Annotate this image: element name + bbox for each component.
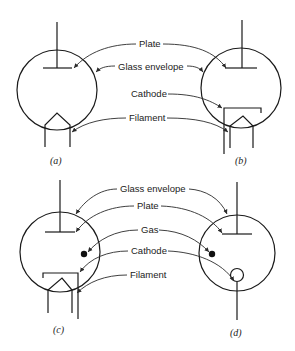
label-cathode-top: Cathode — [131, 88, 167, 99]
label-cathode-bottom: Cathode — [131, 245, 167, 256]
glass-envelope-b — [201, 48, 281, 128]
top-labels: Plate Glass envelope Cathode Filament — [72, 38, 228, 132]
gas-dot-c — [81, 251, 87, 257]
label-glass-envelope-bottom: Glass envelope — [120, 183, 185, 194]
caption-a: (a) — [50, 155, 62, 167]
caption-d: (d) — [230, 327, 242, 339]
cathode-d — [231, 269, 244, 282]
tube-a: (a) — [17, 22, 97, 167]
label-gas-bottom: Gas — [141, 224, 159, 235]
label-filament-top: Filament — [129, 112, 166, 123]
label-filament-bottom: Filament — [130, 269, 167, 280]
label-plate-bottom: Plate — [137, 200, 159, 211]
filament-b — [230, 116, 253, 148]
label-glass-envelope-top: Glass envelope — [118, 61, 183, 72]
vacuum-tube-diagram: (a) (b) Plate Glass envelope Cathode Fil… — [0, 0, 295, 351]
tube-c: (c) — [20, 180, 100, 336]
caption-c: (c) — [53, 324, 65, 336]
gas-dot-d — [209, 251, 215, 257]
caption-b: (b) — [235, 155, 247, 167]
tube-b: (b) — [201, 20, 281, 167]
filament-c — [48, 278, 72, 313]
label-plate-top: Plate — [139, 38, 161, 49]
bottom-labels: Glass envelope Plate Gas Cathode Filamen… — [76, 183, 234, 293]
